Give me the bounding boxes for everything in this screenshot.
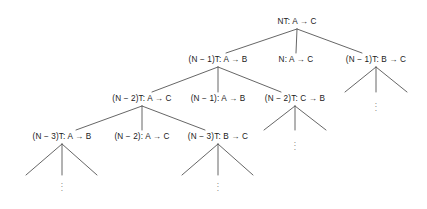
tree-node-n2: N: A → C bbox=[279, 55, 314, 65]
tree-node-n4: (N − 2)T: A → C bbox=[112, 94, 171, 104]
tree-edge bbox=[76, 106, 142, 130]
tree-node-n0: NT: A → C bbox=[277, 17, 316, 27]
tree-edge bbox=[297, 29, 362, 53]
tree-edge bbox=[264, 106, 295, 130]
ellipsis-dot: · bbox=[294, 148, 296, 151]
tree-edge bbox=[218, 144, 253, 175]
tree-node-n7: (N − 3)T: A → B bbox=[33, 132, 92, 142]
tree-node-n6: (N − 2)T: C → B bbox=[265, 94, 325, 104]
tree-node-n5: (N − 1): A → B bbox=[191, 94, 246, 104]
ellipsis-dot: · bbox=[217, 189, 219, 192]
tree-edge bbox=[376, 67, 407, 92]
tree-edge bbox=[182, 144, 218, 175]
vertical-ellipsis-icon: ··· bbox=[294, 141, 296, 151]
tree-edge bbox=[62, 144, 97, 175]
tree-edge bbox=[345, 67, 376, 92]
tree-node-n8: (N − 2): A → C bbox=[114, 132, 169, 142]
vertical-ellipsis-icon: ··· bbox=[217, 182, 219, 192]
tree-edge bbox=[152, 67, 218, 92]
tree-node-n3: (N − 1)T: B → C bbox=[346, 55, 406, 65]
tree-edges-layer bbox=[0, 0, 427, 209]
vertical-ellipsis-icon: ··· bbox=[375, 102, 377, 112]
tree-edge bbox=[26, 144, 62, 175]
ellipsis-dot: · bbox=[61, 189, 63, 192]
tree-edge bbox=[295, 106, 326, 130]
tree-node-n9: (N − 3)T: B → C bbox=[188, 132, 248, 142]
tree-edge bbox=[142, 106, 205, 130]
tree-edge bbox=[296, 29, 297, 53]
ellipsis-dot: · bbox=[375, 109, 377, 112]
tree-edge bbox=[218, 67, 281, 92]
recursion-tree-figure: NT: A → C(N − 1)T: A → BN: A → C(N − 1)T… bbox=[0, 0, 427, 209]
tree-edge bbox=[226, 29, 297, 53]
vertical-ellipsis-icon: ··· bbox=[61, 182, 63, 192]
tree-node-n1: (N − 1)T: A → B bbox=[189, 55, 248, 65]
